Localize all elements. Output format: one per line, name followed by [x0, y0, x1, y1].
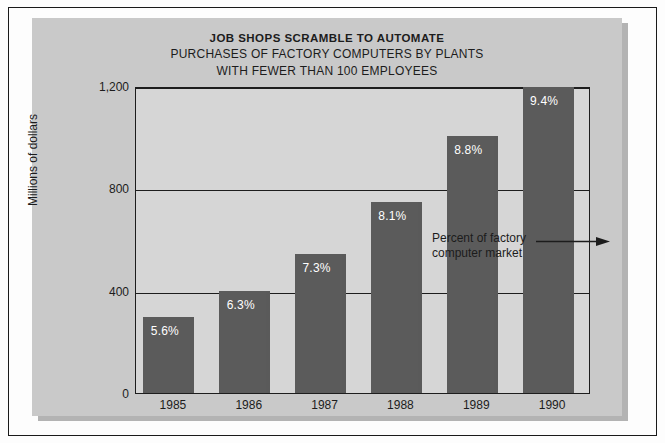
annotation-text: Percent of factory computer market — [432, 231, 612, 261]
y-tick-label-1200: 1,200 — [69, 80, 129, 94]
x-tick-label-1986: 1986 — [211, 398, 287, 412]
title-block: JOB SHOPS SCRAMBLE TO AUTOMATE PURCHASES… — [32, 30, 622, 80]
bar-slot-1987: 7.3% — [295, 88, 346, 393]
y-tick-label-0: 0 — [69, 387, 129, 401]
gridline-1200 — [136, 88, 589, 89]
bar-value-label-1990: 9.4% — [523, 94, 566, 108]
bar-value-label-1986: 6.3% — [219, 298, 262, 312]
figure-page: JOB SHOPS SCRAMBLE TO AUTOMATE PURCHASES… — [0, 0, 665, 443]
bar-value-label-1989: 8.8% — [447, 143, 490, 157]
x-tick-label-1990: 1990 — [514, 398, 590, 412]
bar-1988[interactable]: 8.1% — [371, 202, 422, 393]
plot-area: 5.6%6.3%7.3%8.1%8.8%9.4% Percent of fact… — [135, 87, 590, 394]
bar-1985[interactable]: 5.6% — [143, 317, 194, 393]
gridline-400 — [136, 293, 589, 294]
x-tick-label-1989: 1989 — [438, 398, 514, 412]
chart-subtitle-line2: WITH FEWER THAN 100 EMPLOYEES — [32, 63, 622, 80]
bar-slot-1985: 5.6% — [143, 88, 194, 393]
annotation-line-2: computer market — [432, 246, 612, 261]
chart-subtitle-line1: PURCHASES OF FACTORY COMPUTERS BY PLANTS — [32, 46, 622, 63]
bar-slot-1988: 8.1% — [371, 88, 422, 393]
chart-panel: JOB SHOPS SCRAMBLE TO AUTOMATE PURCHASES… — [32, 18, 622, 416]
chart-title: JOB SHOPS SCRAMBLE TO AUTOMATE — [32, 30, 622, 46]
y-tick-label-800: 800 — [69, 182, 129, 196]
gridline-800 — [136, 190, 589, 191]
bar-1987[interactable]: 7.3% — [295, 254, 346, 393]
x-tick-label-1985: 1985 — [135, 398, 211, 412]
arrow-right-icon — [536, 237, 614, 246]
x-axis-tick-labels: 198519861987198819891990 — [135, 398, 590, 420]
y-axis-tick-labels: 04008001,200 — [67, 87, 129, 394]
bar-slot-1986: 6.3% — [219, 88, 270, 393]
bar-1989[interactable]: 8.8% — [447, 136, 498, 393]
bar-value-label-1988: 8.1% — [371, 209, 414, 223]
x-tick-label-1987: 1987 — [287, 398, 363, 412]
x-tick-label-1988: 1988 — [363, 398, 439, 412]
bar-value-label-1987: 7.3% — [295, 261, 338, 275]
bar-1986[interactable]: 6.3% — [219, 291, 270, 393]
y-axis-title: Millions of dollars — [26, 114, 40, 206]
y-tick-label-400: 400 — [69, 285, 129, 299]
bar-value-label-1985: 5.6% — [143, 324, 186, 338]
